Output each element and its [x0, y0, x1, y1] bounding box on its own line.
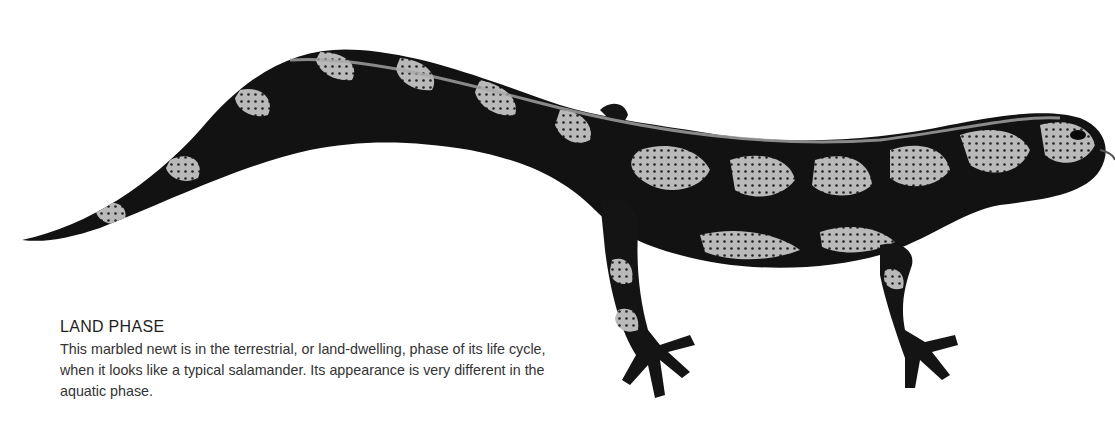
hind-leg — [880, 244, 958, 388]
eye — [1070, 130, 1086, 140]
caption-title: LAND PHASE — [60, 318, 580, 336]
caption-body: This marbled newt is in the terrestrial,… — [60, 339, 580, 402]
caption: LAND PHASE This marbled newt is in the t… — [60, 318, 580, 402]
